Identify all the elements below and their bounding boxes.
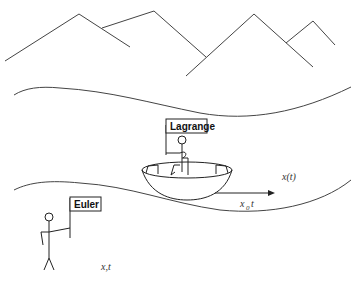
svg-text:t: t — [251, 198, 254, 209]
boat — [142, 162, 232, 200]
euler-coords-label: x,t — [100, 261, 111, 272]
lagrange-observer: Lagrange — [166, 119, 215, 175]
displacement-label: x 0 t — [239, 198, 254, 212]
river-lower-bank — [14, 180, 351, 211]
mountains — [5, 11, 335, 76]
svg-text:x: x — [239, 198, 245, 209]
euler-observer: Euler — [41, 197, 101, 270]
euler-lagrange-diagram: Lagrange Euler x(t) x 0 t x,t — [0, 0, 359, 285]
river-upper-bank — [14, 87, 351, 116]
svg-text:0: 0 — [246, 204, 250, 212]
flow-arrow — [215, 190, 275, 196]
euler-flag-label: Euler — [74, 199, 99, 210]
lagrange-flag-label: Lagrange — [170, 121, 215, 132]
trajectory-label: x(t) — [281, 171, 297, 183]
